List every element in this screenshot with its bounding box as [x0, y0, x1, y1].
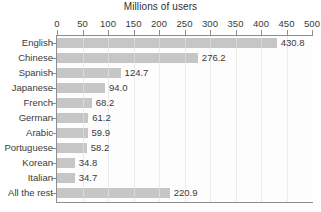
bar-gridline — [134, 53, 135, 63]
gridline — [287, 36, 288, 202]
category-label: Korean — [0, 157, 53, 168]
bar-value-label: 94.0 — [109, 82, 128, 93]
bar-gridline — [185, 38, 186, 48]
category-label: French — [0, 97, 53, 108]
x-tick-label: 500 — [304, 18, 320, 29]
x-tick-label: 200 — [151, 18, 167, 29]
bar-gridline — [134, 38, 135, 48]
category-label: Italian — [0, 172, 53, 183]
bar-gridline — [83, 38, 84, 48]
chart-title: Millions of users — [0, 1, 321, 12]
x-tick — [312, 30, 313, 35]
bar — [57, 113, 88, 123]
bar-gridline — [83, 83, 84, 93]
x-tick-label: 450 — [279, 18, 295, 29]
bar-gridline — [108, 68, 109, 78]
bar-gridline — [83, 68, 84, 78]
bar-value-label: 430.8 — [281, 37, 305, 48]
x-tick-label: 300 — [202, 18, 218, 29]
x-tick — [159, 30, 160, 35]
bar-gridline — [108, 53, 109, 63]
bar-value-label: 34.8 — [79, 157, 98, 168]
category-label: Spanish — [0, 67, 53, 78]
bar-gridline — [261, 38, 262, 48]
bar-value-label: 34.7 — [79, 172, 98, 183]
bar-value-label: 220.9 — [174, 187, 198, 198]
bar — [57, 98, 92, 108]
gridline — [236, 36, 237, 202]
bar-value-label: 59.9 — [92, 127, 111, 138]
bar-gridline — [108, 188, 109, 198]
bar — [57, 143, 87, 153]
bar-value-label: 68.2 — [96, 97, 115, 108]
x-tick — [236, 30, 237, 35]
bar-gridline — [210, 38, 211, 48]
category-label: Arabic — [0, 127, 53, 138]
category-label: German — [0, 112, 53, 123]
x-tick — [287, 30, 288, 35]
bar-gridline — [108, 38, 109, 48]
x-tick-label: 100 — [100, 18, 116, 29]
bar-gridline — [83, 113, 84, 123]
axis-top-line — [57, 35, 313, 36]
category-label: Japanese — [0, 82, 53, 93]
bar-gridline — [134, 188, 135, 198]
x-tick — [57, 30, 58, 35]
bar-gridline — [83, 98, 84, 108]
x-tick — [134, 30, 135, 35]
bar — [57, 128, 88, 138]
x-tick-label: 150 — [126, 18, 142, 29]
x-tick-label: 350 — [228, 18, 244, 29]
bar-gridline — [236, 38, 237, 48]
x-tick-label: 250 — [177, 18, 193, 29]
x-tick — [83, 30, 84, 35]
bar-gridline — [83, 53, 84, 63]
bar-gridline — [83, 188, 84, 198]
x-tick-label: 0 — [54, 18, 59, 29]
bar — [57, 53, 198, 63]
category-label: English — [0, 37, 53, 48]
bar — [57, 158, 75, 168]
category-label: Portuguese — [0, 142, 53, 153]
bar-gridline — [83, 143, 84, 153]
bar-gridline — [83, 128, 84, 138]
bar-chart: Millions of users 0501001502002503003504… — [0, 0, 321, 212]
bar — [57, 38, 277, 48]
x-tick-label: 50 — [77, 18, 88, 29]
bar-value-label: 61.2 — [92, 112, 111, 123]
category-label: Chinese — [0, 52, 53, 63]
gridline — [261, 36, 262, 202]
bar-gridline — [159, 38, 160, 48]
category-label: All the rest — [0, 187, 53, 198]
x-tick — [210, 30, 211, 35]
x-tick — [108, 30, 109, 35]
bar — [57, 83, 105, 93]
bar-gridline — [159, 188, 160, 198]
x-tick — [185, 30, 186, 35]
bar — [57, 173, 75, 183]
axis-bottom-line — [57, 202, 313, 203]
bar-gridline — [185, 53, 186, 63]
bar-value-label: 124.7 — [125, 67, 149, 78]
bar-gridline — [159, 53, 160, 63]
bar-value-label: 276.2 — [202, 52, 226, 63]
bar-value-label: 58.2 — [91, 142, 110, 153]
x-tick-label: 400 — [253, 18, 269, 29]
bar — [57, 188, 170, 198]
bar — [57, 68, 121, 78]
x-tick — [261, 30, 262, 35]
